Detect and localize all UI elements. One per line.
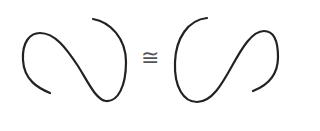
right-curve: [175, 18, 278, 102]
congruence-symbol: ≅: [139, 47, 161, 69]
left-curve: [23, 19, 126, 101]
